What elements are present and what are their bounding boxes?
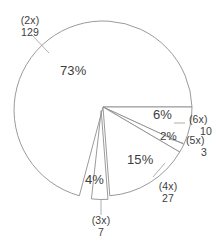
slice-percent-4x: 15% (127, 152, 153, 167)
slice-callout-2x-key: (2x) (8, 14, 52, 26)
slice-callout-3x: (3x) 7 (82, 214, 120, 238)
slice-callout-2x-value: 129 (8, 26, 52, 38)
slice-callout-5x-value: 3 (186, 146, 222, 158)
slice-callout-4x-key: (4x) (149, 180, 187, 192)
slice-callout-2x: (2x) 129 (8, 14, 52, 38)
slice-callout-3x-value: 7 (82, 226, 120, 238)
pie-chart: 73% 6% 2% 15% 4% (2x) 129 (6x) 10 (5x) 3… (0, 0, 224, 242)
slice-percent-6x: 6% (153, 107, 172, 122)
slice-callout-6x-key: (6x) (189, 113, 223, 125)
slice-percent-2x: 73% (60, 63, 86, 78)
slice-percent-5x: 2% (160, 130, 177, 142)
slice-callout-4x: (4x) 27 (149, 180, 187, 204)
slice-callout-3x-key: (3x) (82, 214, 120, 226)
slice-callout-4x-value: 27 (149, 192, 187, 204)
slice-callout-5x: (5x) 3 (186, 134, 222, 158)
slice-callout-5x-key: (5x) (186, 134, 222, 146)
slice-percent-3x: 4% (85, 172, 104, 187)
